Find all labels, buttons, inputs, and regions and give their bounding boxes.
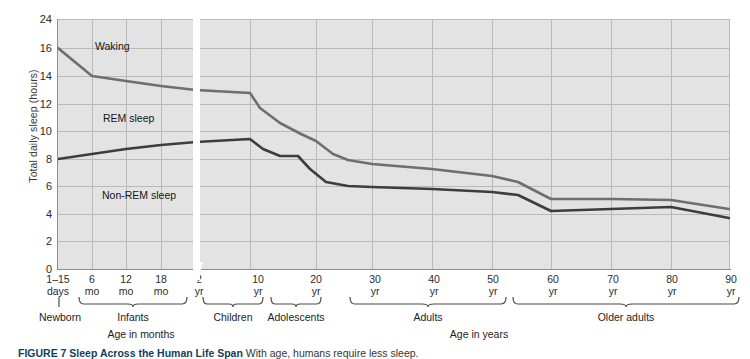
x-tick-value: 20 [310,273,322,285]
y-tick-10: 10 [26,126,52,137]
figure-caption: FIGURE 7 Sleep Across the Human Life Spa… [18,347,419,359]
x-tick-unit: yr [547,286,559,298]
x-tick-30-yr: 30 yr [369,274,381,297]
series-label-waking: Waking [95,40,130,52]
x-axis-caption-years: Age in years [450,328,508,340]
x-tick-value: 30 [369,273,381,285]
x-tick-10-yr: 10 yr [252,274,264,297]
chart-svg [58,19,730,269]
x-tick-unit: mo [154,286,169,298]
x-tick-unit: days [46,286,69,298]
x-tick-18-mo: 18 mo [154,274,169,297]
x-tick-20-yr: 20 yr [310,274,322,297]
x-tick-unit: yr [252,286,264,298]
x-tick-unit: yr [725,286,737,298]
x-tick-value: 18 [155,273,167,285]
y-tick-8: 8 [26,154,52,165]
group-label-adolescents: Adolescents [267,311,324,323]
group-label-newborn: Newborn [39,311,81,323]
nonrem-line [58,139,729,218]
x-tick-value: 60 [547,273,559,285]
x-tick-value: 70 [607,273,619,285]
x-tick-40-yr: 40 yr [428,274,440,297]
x-tick-1-15-days: 1–15 days [46,274,69,297]
y-axis-line [57,19,58,270]
x-tick-unit: yr [487,286,499,298]
brace-older-adults [512,297,740,306]
x-tick-unit: yr [195,286,204,298]
x-tick-unit: yr [310,286,322,298]
x-tick-unit: yr [428,286,440,298]
group-label-adults: Adults [413,311,442,323]
group-label-children: Children [213,311,252,323]
y-tick-14: 14 [26,71,52,82]
x-tick-70-yr: 70 yr [607,274,619,297]
brace-adolescents [270,297,322,306]
x-tick-value: 50 [487,273,499,285]
figure-caption-title: Sleep Across the Human Life Span [69,347,243,359]
y-tick-12: 12 [26,99,52,110]
x-tick-value: 90 [725,273,737,285]
y-tick-24: 24 [26,14,52,25]
x-tick-90-yr: 90 yr [725,274,737,297]
axis-break-band [193,0,200,280]
series-label-rem: REM sleep [103,112,154,124]
plot-area [58,19,730,269]
y-tick-16: 16 [26,43,52,54]
x-tick-value: 1–15 [46,273,69,285]
x-tick-50-yr: 50 yr [487,274,499,297]
figure-caption-body: With age, humans require less sleep. [246,347,419,359]
group-label-infants: Infants [117,311,149,323]
y-axis-tick-labels: 24 16 14 12 10 8 6 4 2 0 [22,0,52,290]
y-tick-4: 4 [26,209,52,220]
x-tick-6-mo: 6 mo [85,274,100,297]
brace-newborn [58,297,59,306]
vertical-gridlines [93,19,730,269]
x-tick-12-mo: 12 mo [119,274,134,297]
total-sleep-line [58,48,729,209]
x-tick-value: 6 [89,273,95,285]
group-label-older-adults: Older adults [598,311,655,323]
figure-caption-label: FIGURE 7 [18,347,66,359]
x-tick-unit: yr [607,286,619,298]
brace-infants [78,297,188,306]
y-tick-2: 2 [26,236,52,247]
x-tick-value: 80 [666,273,678,285]
x-axis-line [57,269,731,270]
x-tick-value: 12 [120,273,132,285]
y-tick-6: 6 [26,181,52,192]
x-tick-value: 40 [428,273,440,285]
x-tick-80-yr: 80 yr [666,274,678,297]
brace-children [202,297,264,306]
x-tick-unit: yr [666,286,678,298]
x-tick-60-yr: 60 yr [547,274,559,297]
x-axis-caption-months: Age in months [107,328,174,340]
series-label-non-rem: Non-REM sleep [102,189,176,201]
x-tick-value: 10 [252,273,264,285]
x-tick-unit: yr [369,286,381,298]
x-tick-unit: mo [85,286,100,298]
x-tick-unit: mo [119,286,134,298]
brace-adults [349,297,507,306]
